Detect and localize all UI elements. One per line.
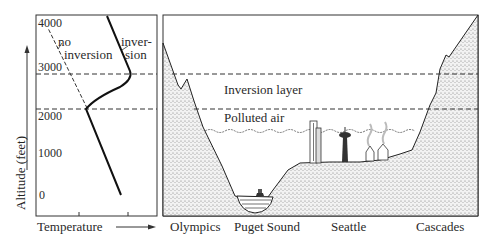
terrain bbox=[163, 15, 478, 216]
y-axis-label: Altitude (feet) bbox=[13, 136, 29, 210]
no-inversion-label-2: inversion bbox=[64, 48, 112, 61]
valley-cross-section-panel bbox=[163, 15, 478, 216]
tick-1000: 1000 bbox=[37, 147, 63, 159]
inversion-layer-label: Inversion layer bbox=[224, 83, 302, 96]
x-axis-label: Temperature bbox=[37, 220, 103, 233]
tick-4000: 4000 bbox=[37, 17, 63, 29]
tick-3000: 3000 bbox=[37, 61, 63, 73]
smoke bbox=[368, 124, 372, 146]
place-seattle: Seattle bbox=[331, 220, 366, 233]
place-cascades: Cascades bbox=[416, 220, 464, 233]
house-icon bbox=[378, 144, 388, 160]
tick-0: 0 bbox=[38, 189, 46, 201]
place-puget-sound: Puget Sound bbox=[234, 220, 300, 233]
tick-2000: 2000 bbox=[37, 110, 63, 122]
inversion-label-2: sion bbox=[125, 48, 147, 61]
smoke bbox=[383, 122, 387, 144]
house-icon bbox=[366, 146, 374, 161]
place-olympics: Olympics bbox=[170, 220, 221, 233]
polluted-air-label: Polluted air bbox=[224, 111, 284, 124]
boat-icon bbox=[256, 193, 264, 196]
